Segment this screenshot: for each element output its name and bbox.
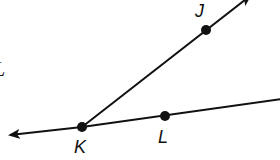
point-j (201, 25, 211, 35)
point-k-label: K (74, 138, 86, 156)
point-k (77, 122, 87, 132)
line-kl (10, 127, 82, 135)
point-j-label: J (195, 2, 204, 20)
geometry-diagram: L J K L (0, 0, 280, 160)
point-l (160, 111, 170, 121)
point-l-label: L (158, 128, 168, 146)
edge-partial-label: L (0, 58, 5, 80)
diagram-svg (0, 0, 280, 160)
